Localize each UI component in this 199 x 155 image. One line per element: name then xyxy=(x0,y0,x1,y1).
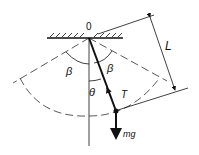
beta-left-arc xyxy=(66,52,89,64)
length-dimension xyxy=(150,17,175,90)
theta-arc xyxy=(89,79,101,81)
dimension-extension-bottom xyxy=(118,88,188,110)
beta-right-label: β xyxy=(106,62,114,74)
pendulum-diagram: 0 T mg β β θ L xyxy=(0,0,199,155)
dimension-extension-top xyxy=(98,15,154,34)
length-label: L xyxy=(165,39,172,53)
tension-label: T xyxy=(121,89,128,100)
beta-left-label: β xyxy=(65,65,73,77)
weight-label: mg xyxy=(123,129,136,139)
theta-label: θ xyxy=(89,86,95,98)
pivot-label: 0 xyxy=(86,21,92,32)
string xyxy=(89,38,116,111)
right-extreme-line xyxy=(89,38,167,81)
ceiling xyxy=(47,33,123,38)
left-extreme-line xyxy=(13,38,89,83)
